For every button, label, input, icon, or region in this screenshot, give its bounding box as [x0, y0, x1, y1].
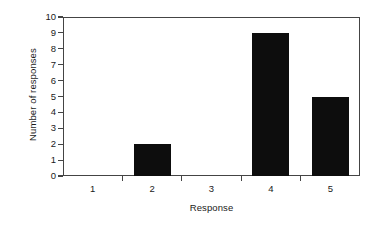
bar-chart: Number of responses 012345678910 12345 R… [0, 0, 378, 228]
bar [252, 33, 289, 176]
x-tick-mark [181, 176, 182, 181]
y-tick-label: 2 [38, 139, 56, 149]
y-tick-label: 4 [38, 108, 56, 118]
y-axis-ticks: 012345678910 [0, 0, 63, 228]
x-tick-label: 3 [182, 184, 241, 194]
y-tick-label: 8 [38, 44, 56, 54]
x-tick-label: 2 [122, 184, 181, 194]
y-tick-label: 7 [38, 60, 56, 70]
y-tick-label: 9 [38, 28, 56, 38]
x-tick-label: 5 [301, 184, 360, 194]
x-axis-title: Response [63, 202, 360, 213]
x-tick-label: 4 [241, 184, 300, 194]
y-tick-label: 6 [38, 76, 56, 86]
bar [134, 144, 171, 176]
y-tick-label: 0 [38, 171, 56, 181]
y-tick-label: 1 [38, 155, 56, 165]
bar [312, 97, 349, 177]
x-tick-mark [300, 176, 301, 181]
y-tick-label: 10 [38, 12, 56, 22]
y-tick-label: 5 [38, 92, 56, 102]
x-tick-label: 1 [63, 184, 122, 194]
x-tick-mark [241, 176, 242, 181]
x-tick-mark [122, 176, 123, 181]
y-tick-label: 3 [38, 124, 56, 134]
